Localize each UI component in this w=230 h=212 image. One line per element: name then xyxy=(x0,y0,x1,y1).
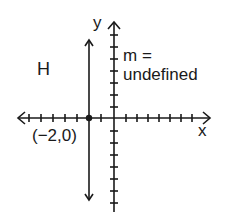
point-label: (−2,0) xyxy=(32,127,77,144)
line-label: H xyxy=(37,60,50,78)
slope-label-line2: undefined xyxy=(123,66,198,83)
point-marker xyxy=(86,115,92,121)
coordinate-plane xyxy=(0,0,230,212)
x-axis-label: x xyxy=(198,122,207,139)
slope-label-line1: m = xyxy=(123,47,152,64)
y-axis-label: y xyxy=(93,14,102,31)
